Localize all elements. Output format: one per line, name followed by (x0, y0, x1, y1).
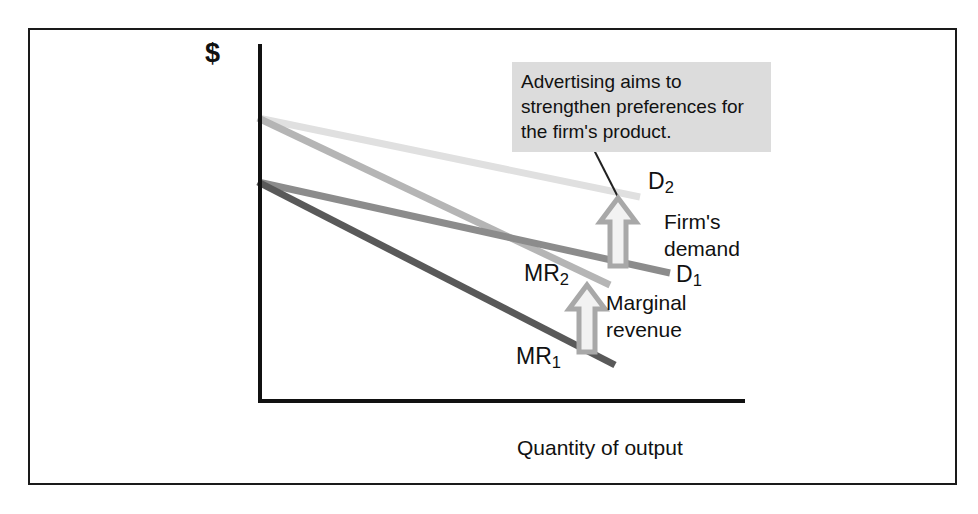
firms-demand-label: Firm'sdemand (664, 209, 740, 263)
marginal-revenue-label: Marginalrevenue (606, 290, 687, 344)
marginal-revenue-line-1: Marginal (606, 291, 687, 314)
curve-label-mr1-subscript: 1 (552, 353, 561, 372)
plot-canvas (0, 0, 978, 514)
curve-label-d1-text: D (676, 261, 693, 287)
curve-label-d2-subscript: 2 (665, 178, 674, 197)
y-axis-label: $ (205, 38, 220, 70)
advertising-annotation-box: Advertising aims to strengthen preferenc… (512, 62, 771, 152)
curve-label-mr1-text: MR (516, 343, 552, 369)
curve-label-mr1: MR1 (516, 343, 561, 373)
curve-label-mr2-text: MR (524, 260, 560, 286)
curve-label-mr2: MR2 (524, 260, 569, 290)
economics-figure: $ Quantity of output Advertising aims to… (0, 0, 978, 514)
firms-demand-line-1: Firm's (664, 210, 721, 233)
curve-label-d1: D1 (676, 261, 702, 291)
marginal-revenue-line-2: revenue (606, 318, 682, 341)
curve-label-d1-subscript: 1 (693, 271, 702, 290)
firms-demand-line-2: demand (664, 237, 740, 260)
curve-label-mr2-subscript: 2 (560, 270, 569, 289)
curve-label-d2: D2 (648, 168, 674, 198)
x-axis-label: Quantity of output (517, 436, 683, 461)
curve-label-d2-text: D (648, 168, 665, 194)
